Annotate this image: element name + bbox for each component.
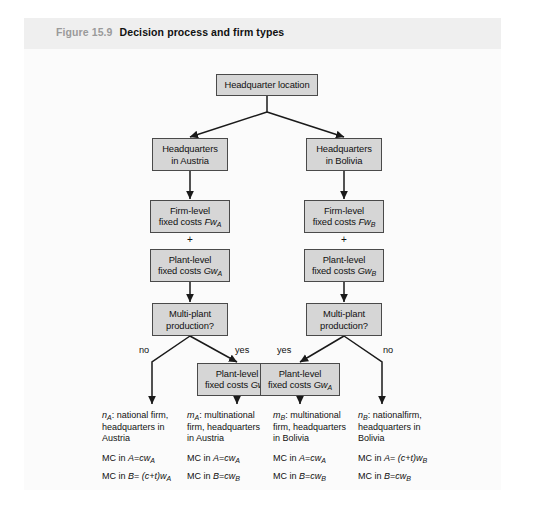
firm-a-pre: fixed costs <box>159 216 205 227</box>
node-plant-level-costs-a[interactable]: Plant-level fixed costs GwA <box>150 249 230 282</box>
outcome-na-line3: Austria <box>102 433 130 443</box>
outcome-ma-mc-a: MC in A=cwA <box>187 453 272 465</box>
mb-mcb-sub: B <box>321 475 326 482</box>
node-firm-level-costs-a-line1: Firm-level <box>170 205 210 216</box>
outcome-nb-mc-a: MC in A= (c+t)wB <box>358 453 446 465</box>
figure-title: Decision process and firm types <box>120 26 285 38</box>
outcome-column-nb: nB: nationalfirm, headquarters in Bolivi… <box>358 410 446 490</box>
node-plant-level-costs-gwb-line1: Plant-level <box>216 368 259 379</box>
node-plant-level-costs-b[interactable]: Plant-level fixed costs GwB <box>304 249 384 282</box>
edge-label-right-no: no <box>383 345 393 355</box>
plant-b-sub: B <box>372 270 377 277</box>
node-plant-level-costs-a-line1: Plant-level <box>169 254 212 265</box>
nb-mca-pre: MC in <box>358 453 384 463</box>
gwb-pre: fixed costs <box>205 379 251 390</box>
outcome-ma-line2: firm, headquarters <box>187 422 260 432</box>
nb-mcb-pre: MC in <box>358 471 384 481</box>
node-headquarters-bolivia-line1: Headquarters <box>316 143 372 154</box>
diagram-canvas: Headquarter location Headquarters in Aus… <box>24 49 501 490</box>
nb-mcb-val: cw <box>395 471 406 481</box>
na-mca-val: cw <box>139 453 150 463</box>
firm-b-var: Fw <box>358 216 370 227</box>
nb-mca-eq: = <box>390 453 398 463</box>
outcome-ma-line3: in Austria <box>187 433 224 443</box>
plant-b-pre: fixed costs <box>312 265 358 276</box>
outcome-na-mc-b: MC in B= (c+t)wA <box>102 471 184 483</box>
mb-mca-sub: A <box>321 457 326 464</box>
outcome-nb-mc-b: MC in B=cwB <box>358 471 446 483</box>
figure-caption: Figure 15.9Decision process and firm typ… <box>56 26 284 38</box>
outcome-na-symbol-sub: A <box>107 414 112 421</box>
node-plant-level-costs-b-line1: Plant-level <box>323 254 366 265</box>
node-firm-level-costs-a[interactable]: Firm-level fixed costs FwA <box>150 200 230 233</box>
plant-b-var: Gw <box>358 265 372 276</box>
nb-mca-sub: B <box>423 457 428 464</box>
mb-mcb-pre: MC in <box>273 471 299 481</box>
na-mcb-eq: = <box>134 471 142 481</box>
edge-label-left-no: no <box>139 345 149 355</box>
gwa-sub: A <box>328 384 333 391</box>
node-multi-plant-left[interactable]: Multi-plant production? <box>152 303 228 336</box>
ma-mca-pre: MC in <box>187 453 213 463</box>
edge-label-right-yes: yes <box>277 345 291 355</box>
node-multi-plant-left-line2: production? <box>166 320 214 331</box>
node-headquarters-austria-line1: Headquarters <box>162 143 218 154</box>
na-mca-sub: A <box>150 457 155 464</box>
node-firm-level-costs-b[interactable]: Firm-level fixed costs FwB <box>304 200 384 233</box>
figure-number: Figure 15.9 <box>56 26 113 38</box>
outcome-column-ma: mA: multinational firm, headquarters in … <box>187 410 272 490</box>
firm-a-var: Fw <box>204 216 216 227</box>
node-plant-level-costs-gwa-line2: fixed costs GwA <box>268 379 332 391</box>
node-headquarters-bolivia[interactable]: Headquarters in Bolivia <box>306 138 382 171</box>
node-firm-level-costs-b-line1: Firm-level <box>324 205 364 216</box>
node-multi-plant-right-line2: production? <box>320 320 368 331</box>
node-plant-level-costs-gwa[interactable]: Plant-level fixed costs GwA <box>260 363 340 396</box>
firm-b-sub: B <box>371 221 376 228</box>
gwa-pre: fixed costs <box>268 379 314 390</box>
ma-mca-val: cw <box>224 453 235 463</box>
nb-mcb-sub: B <box>406 475 411 482</box>
ma-mcb-pre: MC in <box>187 471 213 481</box>
node-headquarters-austria[interactable]: Headquarters in Austria <box>152 138 228 171</box>
outcome-ma-symbol-sub: A <box>195 414 200 421</box>
outcome-na-line1: : national firm, <box>112 410 169 420</box>
mb-mca-pre: MC in <box>273 453 299 463</box>
outcome-mb-mc-a: MC in A=cwA <box>273 453 358 465</box>
outcome-column-na: nA: national firm, headquarters in Austr… <box>102 410 184 490</box>
na-mcb-val: (c+t)w <box>142 471 167 481</box>
node-firm-level-costs-b-line2: fixed costs FwB <box>313 216 376 228</box>
outcome-mb-symbol-sub: B <box>281 414 286 421</box>
outcome-mb-line3: in Bolivia <box>273 433 309 443</box>
outcome-mb-mc-b: MC in B=cwB <box>273 471 358 483</box>
node-multi-plant-right[interactable]: Multi-plant production? <box>306 303 382 336</box>
node-plant-level-costs-b-line2: fixed costs GwB <box>312 265 376 277</box>
node-firm-level-costs-a-line2: fixed costs FwA <box>159 216 222 228</box>
outcome-na-description: nA: national firm, headquarters in Austr… <box>102 410 184 445</box>
node-multi-plant-right-line1: Multi-plant <box>323 308 365 319</box>
outcome-nb-line3: Bolivia <box>358 433 385 443</box>
operator-plus-left: + <box>180 234 200 245</box>
firm-a-sub: A <box>217 221 222 228</box>
na-mca-pre: MC in <box>102 453 128 463</box>
outcome-mb-line2: firm, headquarters <box>273 422 346 432</box>
plant-a-var: Gw <box>204 265 218 276</box>
outcome-nb-description: nB: nationalfirm, headquarters in Bolivi… <box>358 410 446 445</box>
outcome-ma-line1: : multinational <box>199 410 255 420</box>
firm-b-pre: fixed costs <box>313 216 359 227</box>
node-headquarters-austria-line2: in Austria <box>171 155 209 166</box>
ma-mca-sub: A <box>235 457 240 464</box>
na-mcb-pre: MC in <box>102 471 128 481</box>
node-headquarter-location-label: Headquarter location <box>224 79 309 90</box>
node-plant-level-costs-a-line2: fixed costs GwA <box>158 265 222 277</box>
node-headquarter-location[interactable]: Headquarter location <box>216 74 318 96</box>
outcome-mb-description: mB: multinational firm, headquarters in … <box>273 410 358 445</box>
outcome-ma-symbol: m <box>187 410 195 420</box>
plant-a-pre: fixed costs <box>158 265 204 276</box>
na-mcb-sub: A <box>167 475 172 482</box>
outcome-column-mb: mB: multinational firm, headquarters in … <box>273 410 358 490</box>
node-plant-level-costs-gwa-line1: Plant-level <box>279 368 322 379</box>
ma-mcb-sub: B <box>235 475 240 482</box>
ma-mcb-val: cw <box>224 471 235 481</box>
outcome-nb-line2: headquarters in <box>358 422 421 432</box>
plant-a-sub: A <box>218 270 223 277</box>
